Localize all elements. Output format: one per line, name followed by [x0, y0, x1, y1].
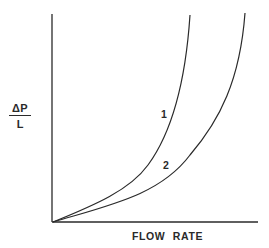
chart-plot-area [0, 0, 269, 248]
curve-1-label: 1 [161, 108, 167, 120]
x-axis-label: FLOW RATE [132, 230, 203, 242]
curve-1 [53, 15, 190, 222]
y-axis-label-denominator: L [9, 116, 31, 130]
y-axis-label: ΔP L [9, 102, 31, 130]
chart-svg [0, 0, 269, 248]
y-axis-label-numerator: ΔP [9, 102, 31, 116]
curve-2 [53, 13, 245, 222]
curve-2-label: 2 [163, 159, 169, 171]
